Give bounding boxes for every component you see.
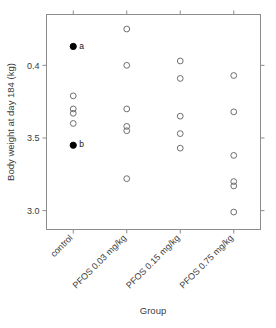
y-tick-label: 0.4 xyxy=(27,61,40,71)
y-tick-label: 3.5 xyxy=(27,133,40,143)
x-axis-title: Group xyxy=(140,305,166,316)
y-axis-title: Body weight at day 184 (kg) xyxy=(5,63,16,181)
data-point-filled xyxy=(70,43,76,49)
point-annotation-a: a xyxy=(79,41,84,51)
y-tick-label: 3.0 xyxy=(27,206,40,216)
point-annotation-b: b xyxy=(79,139,84,149)
plot-canvas: 3.03.50.4 controlPFOS 0.03 mg/kgPFOS 0.1… xyxy=(0,0,276,328)
data-point-filled xyxy=(70,142,76,148)
scatter-plot-body-weight: 3.03.50.4 controlPFOS 0.03 mg/kgPFOS 0.1… xyxy=(0,0,276,328)
